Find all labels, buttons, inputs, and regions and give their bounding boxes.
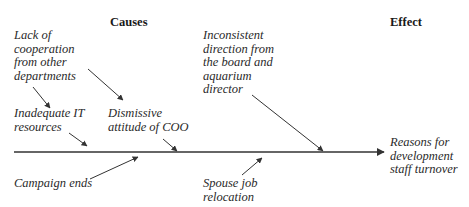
cause-campaign-ends: Campaign ends: [14, 177, 92, 191]
arrow-spouse-to-spine: [242, 158, 262, 175]
effect-header: Effect: [390, 15, 422, 30]
cause-lack-of-cooperation: Lack of cooperation from other departmen…: [14, 29, 76, 83]
cause-spouse-relocation: Spouse job relocation: [203, 177, 258, 204]
fishbone-diagram: Causes Effect Lack of cooperation from o…: [0, 0, 469, 207]
effect-label: Reasons for development staff turnover: [390, 136, 458, 177]
arrow-it-to-spine: [69, 133, 87, 146]
causes-header: Causes: [110, 15, 148, 30]
cause-inadequate-it: Inadequate IT resources: [14, 107, 84, 134]
arrow-cooperation-to-coo: [88, 69, 123, 100]
cause-inconsistent-direction: Inconsistent direction from the board an…: [203, 29, 274, 97]
arrow-coo-to-spine: [163, 139, 177, 151]
arrow-cooperation-to-it: [33, 87, 50, 108]
cause-dismissive-coo: Dismissive attitude of COO: [108, 107, 189, 134]
arrow-direction-to-spine: [252, 95, 323, 151]
arrow-campaign-to-spine: [90, 157, 138, 179]
